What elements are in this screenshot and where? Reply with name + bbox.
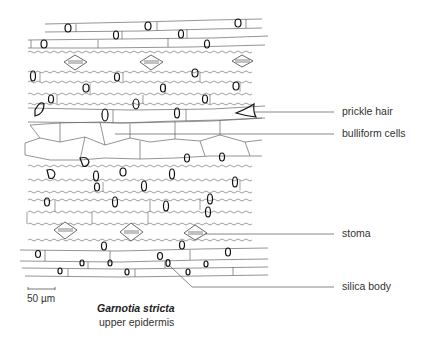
stoma-5 [120,223,143,241]
scale-bar-label: 50 µm [27,293,55,304]
wavy-rows-upper [28,51,252,105]
bulliform-cells [25,118,262,160]
label-silica-body: silica body [342,280,391,292]
figure-subtitle: upper epidermis [99,316,174,328]
long-cells-mid [28,106,265,123]
stoma-2 [140,55,163,70]
stoma-6 [184,225,207,240]
stoma-4 [54,222,77,239]
label-stoma: stoma [342,227,371,239]
label-prickle-hair: prickle hair [342,105,393,117]
stoma-3 [232,55,253,67]
leader-lines [115,112,334,287]
epidermis-drawing [0,0,424,346]
leader-silica-body [170,266,334,287]
species-title: Garnotia stricta [97,302,175,314]
label-bulliform-cells: bulliform cells [342,127,406,139]
long-cells-top [28,19,268,48]
scale-bar [28,287,55,290]
stoma-1 [64,55,87,70]
